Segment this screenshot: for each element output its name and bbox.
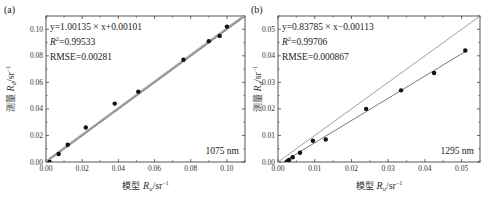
rmse: RMSE=0.00281 bbox=[50, 52, 112, 62]
data-point bbox=[463, 48, 467, 52]
y-axis-label: 测量 Rd/sr−1 bbox=[5, 66, 17, 113]
x-tick-label: 0.10 bbox=[220, 164, 233, 173]
x-tick-label: 0.02 bbox=[345, 164, 358, 173]
data-point bbox=[399, 88, 403, 92]
y-tick-label: 0.10 bbox=[30, 25, 43, 34]
data-point bbox=[287, 158, 291, 162]
data-point bbox=[225, 24, 229, 28]
y-tick-label: 0.06 bbox=[30, 78, 43, 87]
y-tick-label: 0.01 bbox=[262, 131, 275, 140]
data-point bbox=[432, 71, 436, 75]
panel-tag: (a) bbox=[4, 4, 15, 16]
y-tick-label: 0.08 bbox=[30, 51, 43, 60]
fit-line bbox=[284, 51, 467, 162]
data-point bbox=[181, 58, 185, 62]
y-tick-label: 0.00 bbox=[30, 158, 43, 167]
x-axis-label: 模型 Ru/sr−1 bbox=[122, 180, 169, 192]
wavelength-label: 1295 nm bbox=[440, 146, 474, 156]
fit-equation: y=1.00135 × x+0.00101 bbox=[50, 22, 142, 32]
data-point bbox=[324, 137, 328, 141]
data-point bbox=[113, 101, 117, 105]
wavelength-label: 1075 nm bbox=[205, 146, 239, 156]
x-tick-label: 0.04 bbox=[418, 164, 431, 173]
x-tick-label: 0.01 bbox=[308, 164, 321, 173]
data-point bbox=[311, 139, 315, 143]
data-point bbox=[136, 89, 140, 93]
x-tick-label: 0.06 bbox=[148, 164, 161, 173]
data-point bbox=[207, 39, 211, 43]
y-tick-label: 0.02 bbox=[262, 104, 275, 113]
x-tick-label: 0.04 bbox=[112, 164, 125, 173]
data-point bbox=[66, 143, 70, 147]
y-tick-label: 0.00 bbox=[262, 158, 275, 167]
data-point bbox=[56, 152, 60, 156]
y-axis-label: 测量 Rd/sr−1 bbox=[252, 66, 264, 113]
x-axis-label: 模型 Ru/sr−1 bbox=[356, 180, 403, 192]
x-tick-label: 0.03 bbox=[382, 164, 395, 173]
data-point bbox=[84, 125, 88, 129]
figure: 0.000.000.020.020.040.040.060.060.080.08… bbox=[0, 0, 494, 197]
y-tick-label: 0.02 bbox=[30, 131, 43, 140]
data-point bbox=[217, 34, 221, 38]
panel-a: 0.000.000.020.020.040.040.060.060.080.08… bbox=[4, 4, 245, 192]
data-point bbox=[364, 107, 368, 111]
y-tick-label: 0.04 bbox=[30, 104, 43, 113]
data-point bbox=[298, 151, 302, 155]
x-tick-label: 0.05 bbox=[455, 164, 468, 173]
panel-tag: (b) bbox=[251, 4, 263, 16]
x-tick-label: 0.02 bbox=[76, 164, 89, 173]
y-tick-label: 0.04 bbox=[262, 51, 275, 60]
r-squared: R2=0.99706 bbox=[281, 35, 328, 47]
fit-equation: y=0.83785 × x−0.00113 bbox=[282, 22, 374, 32]
x-tick-label: 0.08 bbox=[184, 164, 197, 173]
y-tick-label: 0.05 bbox=[262, 25, 275, 34]
panel-b: 0.000.000.010.010.020.020.030.030.040.04… bbox=[251, 4, 480, 192]
rmse: RMSE=0.000867 bbox=[282, 52, 349, 62]
r-squared: R2=0.99533 bbox=[49, 35, 96, 47]
data-point bbox=[290, 155, 294, 159]
